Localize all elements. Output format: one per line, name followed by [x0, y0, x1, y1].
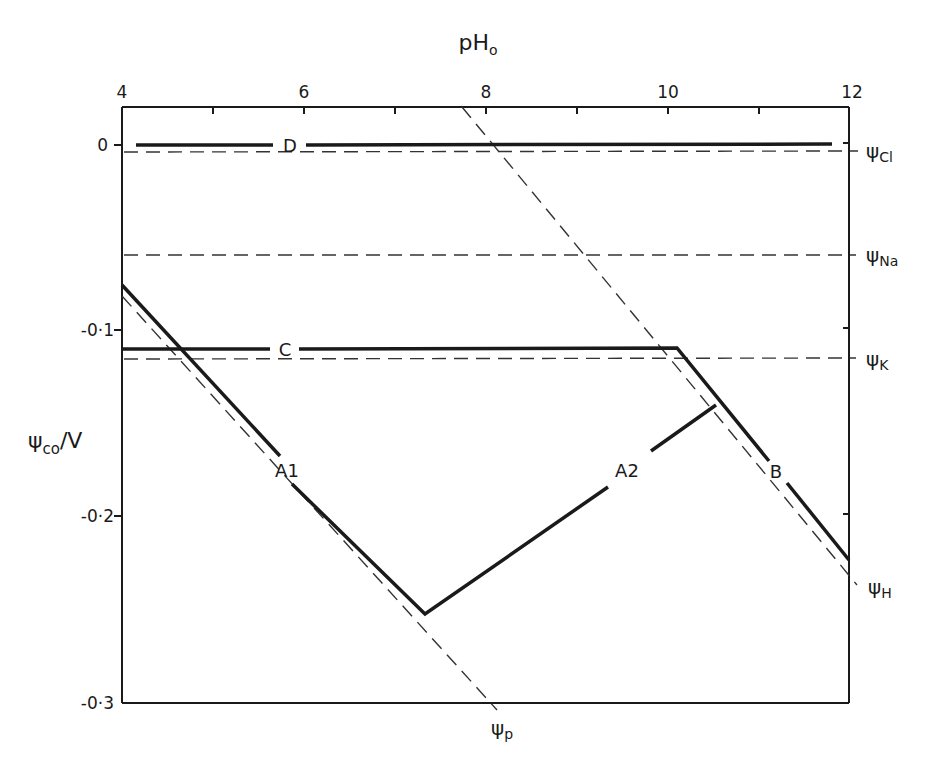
label-d: D — [283, 135, 297, 156]
label-psi-h: ψH — [868, 575, 892, 601]
x-ticks — [213, 107, 759, 114]
curve-c-b-upper — [299, 348, 769, 461]
y-ticks-left — [114, 145, 122, 516]
curve-a2-upper — [651, 405, 716, 451]
label-a1: A1 — [275, 460, 299, 481]
x-tick-6: 6 — [299, 82, 310, 102]
x-tick-labels: 4 6 8 10 12 — [117, 82, 863, 102]
y-tick-minus-0.3: -0·3 — [81, 693, 114, 713]
label-c: C — [279, 339, 292, 360]
label-a2: A2 — [615, 460, 639, 481]
curve-b-lower — [787, 483, 849, 560]
label-psi-k: ψK — [866, 347, 889, 373]
curve-a1-a2-lower — [292, 484, 608, 614]
psi-cl-line — [124, 151, 858, 152]
x-tick-8: 8 — [481, 82, 492, 102]
curve-d-right — [306, 144, 832, 145]
label-psi-na: ψNa — [866, 243, 898, 269]
curve-a1-upper — [122, 285, 280, 456]
label-psi-p: ψp — [491, 716, 513, 742]
psi-k-line — [124, 358, 856, 359]
y-tick-0: 0 — [97, 135, 108, 155]
curves — [122, 144, 849, 614]
x-axis-title: pHo — [458, 30, 497, 58]
x-tick-10: 10 — [657, 82, 679, 102]
y-tick-minus-0.1: -0·1 — [81, 320, 114, 340]
label-psi-cl: ψCl — [866, 139, 893, 165]
psi-h-line — [462, 107, 857, 585]
x-tick-4: 4 — [117, 82, 128, 102]
reference-lines — [122, 107, 858, 710]
y-tick-labels: 0 -0·1 -0·2 -0·3 — [81, 135, 114, 713]
label-b: B — [770, 461, 782, 482]
y-axis-title: ψco/V — [28, 428, 82, 458]
x-tick-12: 12 — [841, 82, 863, 102]
chart-canvas: 4 6 8 10 12 0 -0·1 -0·2 -0·3 pHo ψco/V — [0, 0, 927, 765]
y-tick-minus-0.2: -0·2 — [81, 506, 114, 526]
